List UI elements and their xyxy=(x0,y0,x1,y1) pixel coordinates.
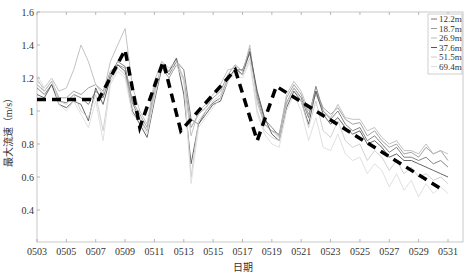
legend: 12.2m18.7m26.9m37.6m51.5m69.4m xyxy=(428,14,462,74)
legend-label: 69.4m xyxy=(439,62,462,72)
x-tick-label: 0505 xyxy=(56,246,76,257)
legend-label: 18.7m xyxy=(439,24,462,34)
y-tick-label: 1.2 xyxy=(22,73,35,84)
x-tick-label: 0531 xyxy=(438,246,458,257)
x-tick-label: 0523 xyxy=(321,246,341,257)
legend-label: 26.9m xyxy=(439,33,462,43)
x-axis-title: 日期 xyxy=(233,262,253,273)
x-tick-label: 0515 xyxy=(203,246,223,257)
y-tick-label: 0.4 xyxy=(22,205,35,216)
x-tick-label: 0511 xyxy=(145,246,165,257)
line-chart: 0.40.60.811.21.41.6 05030505050705090511… xyxy=(0,0,473,278)
y-tick-label: 1 xyxy=(29,106,34,117)
y-tick-label: 0.6 xyxy=(22,172,35,183)
x-tick-label: 0519 xyxy=(262,246,282,257)
x-tick-label: 0527 xyxy=(379,246,399,257)
y-tick-label: 0.8 xyxy=(22,139,35,150)
x-tick-label: 0507 xyxy=(86,246,106,257)
x-tick-label: 0509 xyxy=(115,246,135,257)
y-axis-title: 最大流速（m/s） xyxy=(2,93,14,167)
x-tick-label: 0529 xyxy=(409,246,429,257)
x-tick-label: 0525 xyxy=(350,246,370,257)
legend-label: 51.5m xyxy=(439,52,462,62)
y-tick-label: 1.6 xyxy=(22,7,35,18)
x-tick-label: 0513 xyxy=(174,246,194,257)
x-tick-label: 0517 xyxy=(233,246,253,257)
legend-label: 12.2m xyxy=(439,14,462,24)
x-tick-label: 0503 xyxy=(27,246,47,257)
x-tick-label: 0521 xyxy=(291,246,311,257)
y-tick-label: 1.4 xyxy=(22,40,35,51)
legend-label: 37.6m xyxy=(439,43,462,53)
